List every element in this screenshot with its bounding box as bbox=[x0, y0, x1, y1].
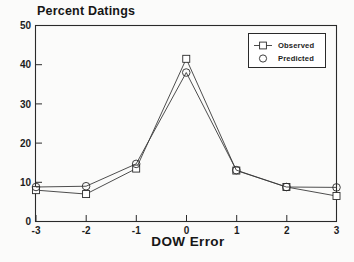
marker-square bbox=[183, 55, 190, 62]
data-series-layer bbox=[32, 55, 340, 199]
chart-plot-area: 0 10 20 30 40 50 -3 -2 -1 0 1 2 3 bbox=[0, 0, 354, 262]
legend-label-predicted: Predicted bbox=[278, 54, 314, 63]
y-tick-label: 30 bbox=[20, 99, 32, 110]
series-observed bbox=[33, 55, 341, 199]
y-tick-label: 40 bbox=[20, 59, 32, 70]
marker-square bbox=[333, 193, 340, 200]
legend-label-observed: Observed bbox=[278, 41, 314, 50]
y-axis-tick-labels: 0 10 20 30 40 50 bbox=[20, 20, 32, 227]
marker-square bbox=[83, 191, 90, 198]
chart-legend: Observed Predicted bbox=[249, 34, 326, 68]
y-tick-label: 20 bbox=[20, 138, 32, 149]
x-axis-label: DOW Error bbox=[0, 234, 354, 249]
y-tick-label: 10 bbox=[20, 177, 32, 188]
series-predicted bbox=[32, 69, 340, 191]
y-tick-label: 0 bbox=[25, 216, 31, 227]
y-tick-label: 50 bbox=[20, 20, 32, 31]
chart-figure: Percent Datings 0 10 20 30 40 50 bbox=[0, 0, 354, 262]
marker-square bbox=[133, 165, 140, 172]
x-axis-ticks bbox=[36, 215, 337, 222]
x-axis-label-text: DOW Error bbox=[129, 234, 224, 249]
